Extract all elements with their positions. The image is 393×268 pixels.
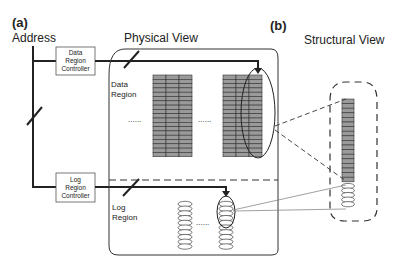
log-region-label-1: Log — [112, 203, 125, 212]
memory-block-cell — [179, 101, 192, 105]
memory-block-cell — [166, 101, 179, 105]
memory-block-cell — [179, 75, 192, 79]
memory-block-cell — [153, 122, 166, 126]
log-controller-line3: Controller — [61, 192, 90, 199]
memory-block-cell — [236, 109, 249, 113]
memory-block-cell — [223, 118, 236, 122]
memory-block-cell — [236, 105, 249, 109]
memory-block-cell — [179, 114, 192, 118]
memory-block-cell — [236, 118, 249, 122]
memory-block-cell — [166, 105, 179, 109]
memory-block-cell — [179, 131, 192, 135]
log-entry — [342, 202, 355, 207]
memory-block-cell — [179, 135, 192, 139]
memory-block-cell — [223, 122, 236, 126]
panel-a-tag: (a) — [12, 15, 28, 30]
log-controller-line2: Region — [65, 184, 86, 192]
log-entry — [178, 244, 192, 249]
memory-block-cell — [153, 84, 166, 88]
memory-block-cell — [179, 152, 192, 156]
memory-block-cell — [249, 131, 262, 135]
memory-block-cell — [342, 113, 354, 118]
log-entry — [219, 244, 233, 249]
memory-block-cell — [166, 88, 179, 92]
memory-block-cell — [223, 79, 236, 83]
memory-block-cell — [179, 148, 192, 152]
data-controller-line2: Region — [65, 57, 86, 65]
memory-block-cell — [249, 88, 262, 92]
memory-block-cell — [249, 144, 262, 148]
memory-block-cell — [153, 97, 166, 101]
memory-block-cell — [236, 152, 249, 156]
memory-block-cell — [223, 114, 236, 118]
log-region-label-2: Region — [112, 213, 137, 222]
memory-block-cell — [342, 136, 354, 141]
memory-block-cell — [342, 173, 354, 178]
memory-block-cell — [342, 150, 354, 155]
memory-block-cell — [236, 101, 249, 105]
memory-block-cell — [342, 117, 354, 122]
memory-block-cell — [249, 140, 262, 144]
log-bus-line — [95, 187, 226, 193]
memory-block-cell — [179, 105, 192, 109]
memory-block-cell — [179, 118, 192, 122]
memory-block-cell — [179, 84, 192, 88]
memory-block-cell — [179, 140, 192, 144]
panel-b-tag: (b) — [270, 18, 287, 33]
data-ellipsis-2: ...... — [198, 115, 211, 124]
memory-block-cell — [166, 109, 179, 113]
memory-block-cell — [223, 148, 236, 152]
memory-block-cell — [223, 140, 236, 144]
memory-block-cell — [249, 122, 262, 126]
memory-block-cell — [342, 163, 354, 168]
memory-block-cell — [166, 131, 179, 135]
memory-block-cell — [342, 131, 354, 136]
memory-block-cell — [153, 118, 166, 122]
memory-block-cell — [342, 168, 354, 173]
memory-block-cell — [223, 75, 236, 79]
memory-block-cell — [166, 97, 179, 101]
structural-data-column — [342, 99, 354, 182]
data-bus-slash — [124, 51, 139, 68]
memory-block-cell — [153, 131, 166, 135]
memory-block-cell — [179, 144, 192, 148]
memory-block-cell — [223, 97, 236, 101]
memory-block-cell — [153, 92, 166, 96]
memory-block-cell — [166, 135, 179, 139]
data-region-label-2: Region — [111, 90, 136, 99]
memory-block-cell — [236, 114, 249, 118]
memory-block-cell — [179, 109, 192, 113]
memory-block-cell — [249, 114, 262, 118]
memory-block-cell — [153, 140, 166, 144]
memory-block-cell — [166, 75, 179, 79]
memory-block-cell — [236, 140, 249, 144]
memory-block-cell — [342, 145, 354, 150]
data-ellipsis-1: ...... — [128, 115, 141, 124]
memory-block-cell — [166, 152, 179, 156]
memory-block-cell — [342, 154, 354, 159]
memory-block-cell — [236, 84, 249, 88]
memory-block-cell — [166, 84, 179, 88]
memory-block-cell — [236, 79, 249, 83]
physical-view-title: Physical View — [124, 31, 198, 45]
memory-block-cell — [223, 88, 236, 92]
memory-block-cell — [223, 109, 236, 113]
memory-block-cell — [249, 135, 262, 139]
memory-block-cell — [236, 148, 249, 152]
memory-block-cell — [166, 127, 179, 131]
data-bus-line — [95, 61, 258, 70]
projection-line-top — [275, 99, 346, 126]
memory-block-cell — [223, 105, 236, 109]
log-stack-left — [178, 201, 192, 249]
memory-block-cell — [179, 88, 192, 92]
memory-block-cell — [249, 105, 262, 109]
memory-block-cell — [249, 118, 262, 122]
memory-block-cell — [166, 148, 179, 152]
memory-block-cell — [179, 97, 192, 101]
memory-block-cell — [223, 101, 236, 105]
memory-block-cell — [153, 101, 166, 105]
memory-block-cell — [153, 135, 166, 139]
memory-block-cell — [223, 144, 236, 148]
memory-block-cell — [236, 122, 249, 126]
memory-block-cell — [249, 109, 262, 113]
